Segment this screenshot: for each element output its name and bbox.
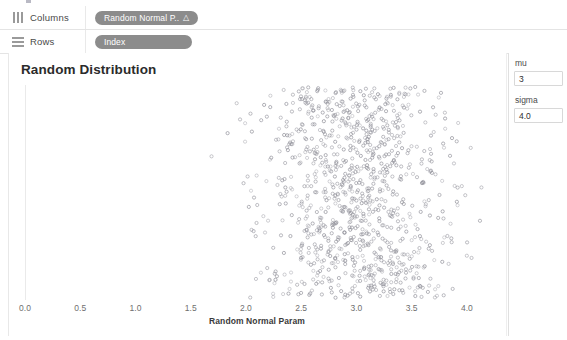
rows-shelf-dropzone[interactable]: Index: [86, 30, 567, 53]
scatter-point: [388, 245, 391, 248]
scatter-point: [259, 271, 262, 274]
scatter-point: [390, 149, 393, 152]
scatter-point: [297, 293, 300, 296]
scatter-point: [285, 190, 288, 193]
sigma-input[interactable]: 4.0: [514, 108, 563, 123]
scatter-point: [406, 152, 409, 155]
scatter-point: [303, 185, 306, 188]
scatter-point: [362, 165, 365, 168]
scatter-point: [396, 134, 399, 137]
scatter-point: [351, 114, 354, 117]
scatter-point: [272, 295, 275, 298]
scatter-point: [368, 158, 371, 161]
scatter-point: [423, 89, 426, 92]
scatter-point: [332, 153, 335, 156]
pill-label: Random Normal P..: [104, 11, 179, 25]
scatter-point: [320, 139, 323, 142]
scatter-point: [351, 190, 354, 193]
scatter-point: [409, 87, 412, 90]
scatter-point: [359, 248, 362, 251]
scatter-point: [420, 158, 423, 161]
scatter-point: [426, 290, 429, 293]
scatter-point: [395, 154, 398, 157]
mu-input[interactable]: 3: [514, 71, 563, 86]
scatter-point: [389, 249, 392, 252]
scatter-point: [427, 198, 430, 201]
scatter-point: [390, 281, 393, 284]
rows-shelf[interactable]: Rows Index: [0, 30, 567, 54]
scatter-point: [338, 125, 341, 128]
scatter-point: [301, 206, 304, 209]
scatter-plot[interactable]: [25, 85, 490, 300]
scatter-point: [321, 281, 324, 284]
scatter-point: [396, 213, 399, 216]
scatter-point: [375, 288, 378, 291]
scatter-point: [324, 154, 327, 157]
scatter-point: [441, 179, 444, 182]
scatter-point: [351, 157, 354, 160]
scatter-point: [320, 293, 323, 296]
scatter-point: [279, 116, 282, 119]
scatter-point: [424, 121, 427, 124]
scatter-point: [359, 154, 362, 157]
scatter-point: [432, 130, 435, 133]
scatter-point: [369, 176, 372, 179]
scatter-point: [455, 140, 458, 143]
scatter-point: [448, 154, 451, 157]
scatter-point: [331, 97, 334, 100]
scatter-point: [378, 294, 381, 297]
scatter-point: [416, 93, 419, 96]
scatter-point: [386, 294, 389, 297]
scatter-point: [480, 186, 483, 189]
scatter-point: [437, 96, 440, 99]
scatter-point: [393, 288, 396, 291]
scatter-point: [398, 261, 401, 264]
scatter-point: [391, 175, 394, 178]
scatter-point: [372, 279, 375, 282]
columns-shelf-label-text: Columns: [30, 12, 69, 23]
pill-random-normal-param[interactable]: Random Normal P.. △: [95, 11, 198, 25]
scatter-point: [291, 93, 294, 96]
scatter-point: [394, 281, 397, 284]
scatter-point: [343, 253, 346, 256]
scatter-point: [329, 254, 332, 257]
scatter-point: [244, 122, 247, 125]
scatter-point: [307, 112, 310, 115]
scatter-point: [314, 180, 317, 183]
x-tick-label: 3.5: [406, 303, 418, 313]
scatter-point: [409, 269, 412, 272]
scatter-point: [295, 195, 298, 198]
scatter-point: [382, 290, 385, 293]
scatter-point: [437, 285, 440, 288]
scatter-point: [402, 95, 405, 98]
scatter-plot-canvas: [26, 85, 490, 300]
scatter-point: [242, 182, 245, 185]
scatter-point: [438, 193, 441, 196]
scatter-point: [384, 120, 387, 123]
scatter-point: [359, 295, 362, 298]
scatter-point: [276, 183, 279, 186]
scatter-point: [359, 269, 362, 272]
scatter-point: [340, 290, 343, 293]
columns-shelf[interactable]: Columns Random Normal P.. △: [0, 6, 567, 30]
scatter-point: [439, 91, 442, 94]
pill-index[interactable]: Index: [95, 35, 192, 49]
scatter-point: [317, 107, 320, 110]
scatter-point: [404, 277, 407, 280]
scatter-point: [313, 262, 316, 265]
scatter-point: [450, 237, 453, 240]
scatter-point: [337, 276, 340, 279]
scatter-point: [247, 205, 250, 208]
scatter-point: [355, 148, 358, 151]
columns-shelf-dropzone[interactable]: Random Normal P.. △: [86, 6, 567, 29]
rows-shelf-label: Rows: [0, 30, 86, 53]
scatter-point: [309, 263, 312, 266]
scatter-point: [414, 85, 417, 88]
scatter-point: [390, 272, 393, 275]
scatter-point: [382, 135, 385, 138]
x-axis-ticks: 0.00.51.01.52.02.53.03.54.0: [25, 300, 489, 316]
scatter-point: [356, 292, 359, 295]
scatter-point: [390, 133, 393, 136]
scatter-point: [391, 103, 394, 106]
scatter-point: [336, 260, 339, 263]
